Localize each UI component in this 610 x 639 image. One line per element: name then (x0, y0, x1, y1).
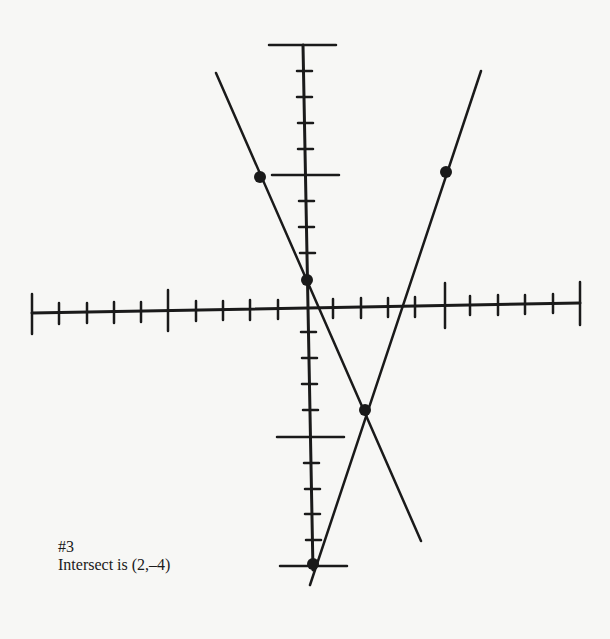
point-b2 (307, 558, 319, 570)
figure-label: #3 (58, 538, 170, 556)
caption: #3 Intersect is (2,–4) (58, 538, 170, 574)
intersection-point (359, 404, 371, 416)
intersection-caption: Intersect is (2,–4) (58, 556, 170, 574)
point-a1 (254, 171, 266, 183)
point-b1 (440, 166, 452, 178)
point-a2 (301, 274, 313, 286)
line-b (310, 71, 481, 585)
